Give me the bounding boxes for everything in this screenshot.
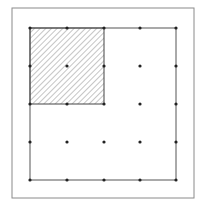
grid-dot bbox=[138, 140, 141, 143]
dot-grid-diagram bbox=[0, 0, 204, 207]
grid-dot bbox=[102, 102, 105, 105]
grid-dot bbox=[65, 64, 68, 67]
grid-dot bbox=[138, 178, 141, 181]
grid-dot bbox=[174, 26, 177, 29]
grid-dot bbox=[65, 178, 68, 181]
grid-dot bbox=[65, 140, 68, 143]
grid-dot bbox=[102, 178, 105, 181]
grid-dot bbox=[138, 102, 141, 105]
grid-dot bbox=[28, 140, 31, 143]
grid-dot bbox=[138, 64, 141, 67]
grid-dot bbox=[65, 26, 68, 29]
grid-dot bbox=[102, 140, 105, 143]
grid-dot bbox=[174, 102, 177, 105]
grid-dot bbox=[28, 64, 31, 67]
grid-dot bbox=[102, 64, 105, 67]
grid-dot bbox=[102, 26, 105, 29]
grid-dot bbox=[174, 140, 177, 143]
grid-dot bbox=[174, 64, 177, 67]
grid-dot bbox=[138, 26, 141, 29]
grid-dot bbox=[65, 102, 68, 105]
grid-dot bbox=[28, 102, 31, 105]
grid-dot bbox=[28, 26, 31, 29]
grid-dot bbox=[28, 178, 31, 181]
grid-dot bbox=[174, 178, 177, 181]
